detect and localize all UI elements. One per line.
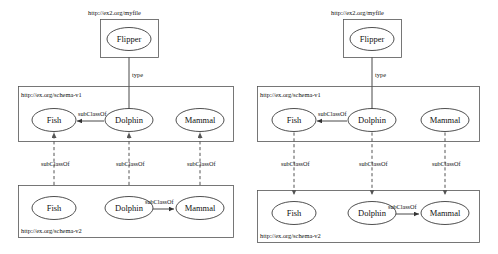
- node-dolphin-v1-label: Dolphin: [115, 115, 144, 125]
- schema-v1-uri-label: http://ex.org/schema-v1: [260, 91, 321, 98]
- node-mammal-v2-label: Mammal: [430, 208, 461, 218]
- edge-dolphin-crossver-label: subClassOf: [116, 160, 145, 167]
- edge-fish-crossver-label: subClassOf: [41, 160, 70, 167]
- node-mammal-v2-label: Mammal: [185, 203, 216, 213]
- schema-v1-uri-label: http://ex.org/schema-v1: [21, 91, 82, 98]
- edge-type-label: type: [132, 71, 143, 78]
- node-mammal-v1-label: Mammal: [430, 115, 461, 125]
- node-flipper-label: Flipper: [360, 34, 385, 44]
- instance-box-uri-label: http://ex2.org/myfile: [88, 9, 141, 16]
- node-fish-v1-label: Fish: [287, 115, 302, 125]
- node-dolphin-v2-label: Dolphin: [115, 203, 144, 213]
- diagram-canvas: http://ex2.org/myfile Flipper type http:…: [0, 0, 498, 254]
- right-diagram-svg: http://ex2.org/myfile Flipper type http:…: [249, 0, 498, 254]
- edge-mammal-crossver-label: subClassOf: [432, 160, 461, 167]
- left-diagram-panel: http://ex2.org/myfile Flipper type http:…: [0, 0, 249, 254]
- edge-fish-crossver-label: subClassOf: [281, 160, 310, 167]
- edge-dolphin-subclassof-mammal-v2-label: subClassOf: [388, 203, 417, 210]
- edge-mammal-crossver-label: subClassOf: [187, 160, 216, 167]
- node-fish-v1-label: Fish: [47, 115, 62, 125]
- edge-dolphin-crossver-label: subClassOf: [359, 160, 388, 167]
- edge-type-label: type: [375, 71, 386, 78]
- schema-v2-uri-label: http://ex.org/schema-v2: [260, 232, 321, 239]
- schema-v2-uri-label: http://ex.org/schema-v2: [21, 227, 82, 234]
- right-diagram-panel: http://ex2.org/myfile Flipper type http:…: [249, 0, 498, 254]
- node-fish-v2-label: Fish: [47, 203, 62, 213]
- node-mammal-v1-label: Mammal: [185, 115, 216, 125]
- edge-dolphin-subclassof-mammal-v2-label: subClassOf: [145, 198, 174, 205]
- node-dolphin-v1-label: Dolphin: [358, 115, 387, 125]
- node-dolphin-v2-label: Dolphin: [358, 208, 387, 218]
- node-fish-v2-label: Fish: [287, 208, 302, 218]
- instance-box-uri-label: http://ex2.org/myfile: [331, 9, 384, 16]
- left-diagram-svg: http://ex2.org/myfile Flipper type http:…: [0, 0, 249, 254]
- node-flipper-label: Flipper: [117, 34, 142, 44]
- edge-dolphin-subclassof-fish-v1-label: subClassOf: [78, 110, 107, 117]
- edge-dolphin-subclassof-fish-v1-label: subClassOf: [318, 110, 347, 117]
